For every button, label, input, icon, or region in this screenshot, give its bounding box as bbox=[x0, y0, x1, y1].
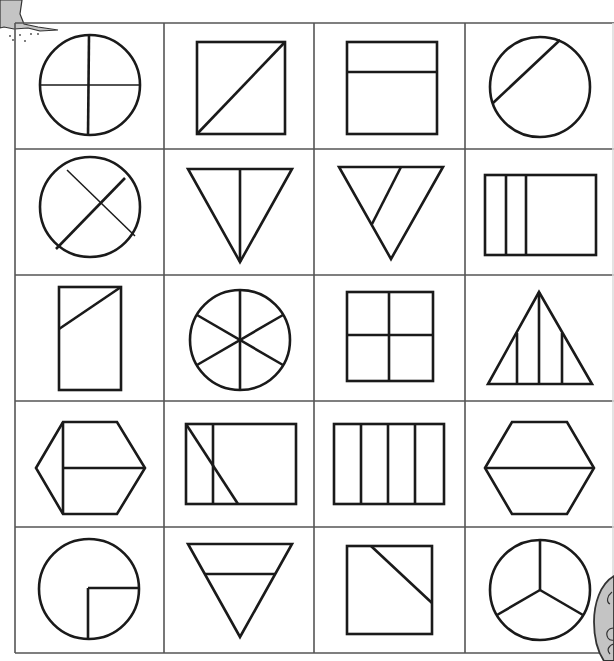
cell-r4c2-rectangle-line-diagonal[interactable] bbox=[164, 401, 314, 527]
worksheet-canvas bbox=[0, 0, 614, 661]
cell-r3c1-tall-rectangle-slant[interactable] bbox=[15, 275, 164, 401]
cell-r4c3-rectangle-fourths[interactable] bbox=[314, 401, 465, 527]
cell-r4c1-hexagon-divided[interactable] bbox=[15, 401, 164, 527]
cell-r3c4-triangle-vertical-lines[interactable] bbox=[465, 275, 613, 401]
cell-r2c4-rectangle-strips[interactable] bbox=[465, 149, 613, 275]
worksheet bbox=[0, 0, 614, 661]
cell-r2c3-triangle-slant[interactable] bbox=[314, 149, 465, 275]
cell-r1c2-square-diagonal[interactable] bbox=[164, 23, 314, 149]
cell-r5c1-circle-quarter-mark[interactable] bbox=[15, 527, 164, 653]
cell-r5c3-square-corner-cut[interactable] bbox=[314, 527, 465, 653]
cell-r2c1-circle-crossed-lines[interactable] bbox=[15, 149, 164, 275]
cell-r5c4-circle-thirds[interactable] bbox=[465, 527, 613, 653]
cell-r1c1-circle-quarters[interactable] bbox=[15, 23, 164, 149]
cell-r3c2-circle-sixths[interactable] bbox=[164, 275, 314, 401]
cell-r5c2-triangle-top-band[interactable] bbox=[164, 527, 314, 653]
cell-r3c3-square-quarters[interactable] bbox=[314, 275, 465, 401]
cell-r1c3-square-top-strip[interactable] bbox=[314, 23, 465, 149]
cell-r2c2-triangle-halves[interactable] bbox=[164, 149, 314, 275]
cell-r4c4-hexagon-halves[interactable] bbox=[465, 401, 613, 527]
cell-r1c4-circle-chord[interactable] bbox=[465, 23, 613, 149]
